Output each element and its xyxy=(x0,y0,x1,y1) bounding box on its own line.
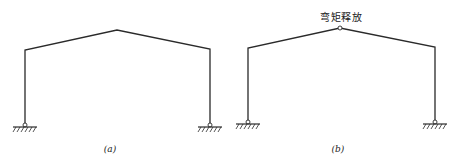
panel-a-left-support-icon xyxy=(13,123,37,132)
moment-release-label: 弯矩释放 xyxy=(320,9,362,24)
panel-b-right-support-icon xyxy=(423,120,447,129)
panel-b-moment-release-hinge-icon xyxy=(338,26,342,30)
panel-a-caption: (a) xyxy=(104,144,116,154)
panel-a-right-support-icon xyxy=(198,123,222,132)
panel-b-frame-members xyxy=(248,28,435,121)
panel-b-frame xyxy=(248,28,435,121)
frame-diagram xyxy=(0,0,454,168)
panel-b-left-support-icon xyxy=(236,120,260,129)
panel-a-frame xyxy=(25,30,210,124)
panel-a-frame-members xyxy=(25,30,210,124)
panel-b-caption: (b) xyxy=(332,144,345,154)
